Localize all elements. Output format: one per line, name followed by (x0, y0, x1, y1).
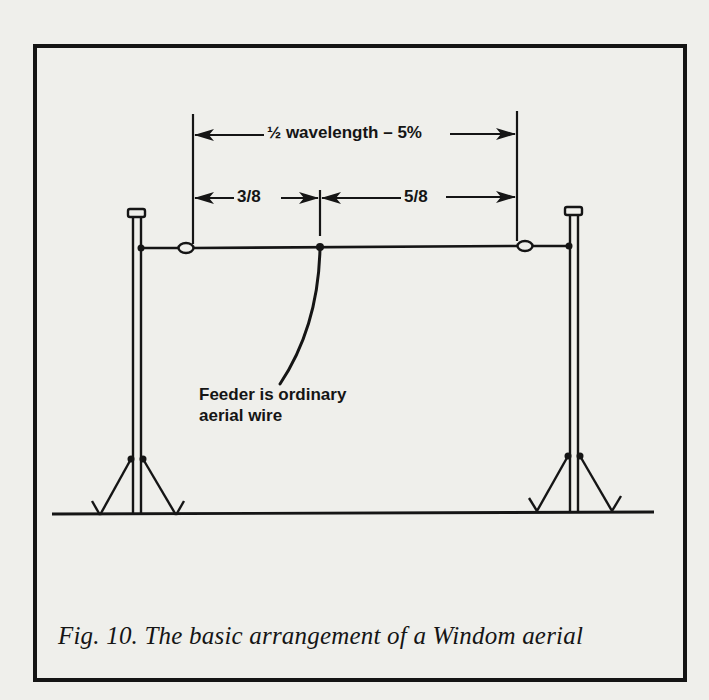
feeder-annotation-line-1: Feeder is ordinary (199, 384, 346, 405)
left-mast-cap (128, 209, 145, 217)
left-mast (92, 209, 184, 515)
windom-aerial-diagram (0, 0, 709, 700)
left-insulator-icon (179, 243, 194, 253)
feeder-annotation: Feeder is ordinary aerial wire (199, 384, 346, 426)
right-segment-label: 5/8 (401, 188, 431, 206)
aerial-wire (141, 246, 569, 248)
right-mast-cap (565, 207, 582, 215)
right-mast (529, 207, 621, 512)
left-mast-guy-left (100, 459, 131, 515)
right-insulator-icon (518, 241, 533, 251)
right-mast-guy-right (580, 456, 612, 511)
feeder-wire (280, 248, 320, 384)
page: ½ wavelength – 5% 3/8 5/8 Feeder is ordi… (0, 0, 709, 700)
feeder-annotation-line-2: aerial wire (199, 405, 346, 426)
figure-caption: Fig. 10. The basic arrangement of a Wind… (58, 622, 583, 650)
ground-line (52, 512, 654, 514)
right-mast-guy-left (537, 456, 568, 511)
left-mast-guy-right (143, 459, 176, 515)
overall-dimension-label: ½ wavelength – 5% (264, 124, 425, 142)
left-segment-label: 3/8 (234, 188, 264, 206)
